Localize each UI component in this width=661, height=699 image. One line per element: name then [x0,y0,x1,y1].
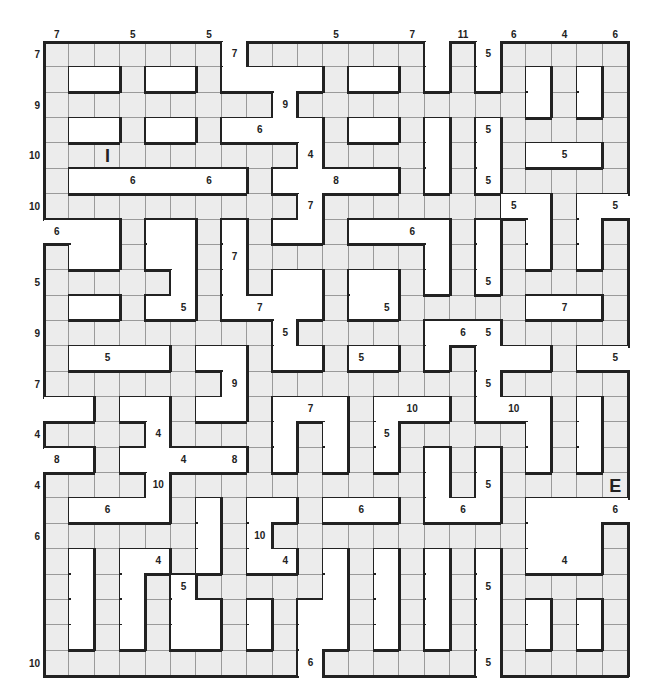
grid-cell[interactable] [374,194,399,219]
grid-cell[interactable] [501,245,526,270]
grid-cell[interactable] [120,118,145,143]
grid-cell[interactable] [450,245,475,270]
grid-cell[interactable] [146,372,171,397]
grid-cell[interactable] [399,67,424,92]
grid-cell[interactable] [501,220,526,245]
grid-cell[interactable] [95,270,120,295]
grid-cell[interactable] [399,549,424,574]
grid-cell[interactable] [450,169,475,194]
grid-cell[interactable] [399,194,424,219]
grid-cell[interactable] [399,93,424,118]
grid-cell[interactable] [44,600,69,625]
grid-cell[interactable] [501,93,526,118]
grid-cell[interactable] [69,321,94,346]
grid-cell[interactable] [603,422,628,447]
grid-cell[interactable] [552,118,577,143]
grid-cell[interactable] [44,549,69,574]
grid-cell[interactable] [349,524,374,549]
grid-cell[interactable] [120,194,145,219]
grid-cell[interactable] [273,524,298,549]
grid-cell[interactable] [450,549,475,574]
grid-cell[interactable] [603,143,628,168]
grid-cell[interactable] [399,422,424,447]
grid-cell[interactable] [323,270,348,295]
grid-cell[interactable] [374,524,399,549]
grid-cell[interactable] [95,575,120,600]
grid-cell[interactable] [298,448,323,473]
grid-cell[interactable] [399,245,424,270]
grid-cell[interactable] [273,372,298,397]
grid-cell[interactable] [399,270,424,295]
grid-cell[interactable] [501,296,526,321]
grid-cell[interactable] [476,194,501,219]
grid-cell[interactable] [171,473,196,498]
grid-cell[interactable] [450,625,475,650]
grid-cell[interactable] [476,524,501,549]
grid-cell[interactable] [298,321,323,346]
grid-cell[interactable] [44,422,69,447]
grid-cell[interactable] [44,194,69,219]
grid-cell[interactable] [196,194,221,219]
grid-cell[interactable] [44,270,69,295]
grid-cell[interactable] [501,575,526,600]
grid-cell[interactable] [146,600,171,625]
grid-cell[interactable] [450,448,475,473]
grid-cell[interactable] [120,321,145,346]
grid-cell[interactable] [552,220,577,245]
grid-cell[interactable] [120,270,145,295]
grid-cell[interactable] [603,397,628,422]
grid-cell[interactable] [146,575,171,600]
grid-cell[interactable] [171,346,196,371]
grid-cell[interactable] [349,245,374,270]
grid-cell[interactable] [95,549,120,574]
grid-cell[interactable] [95,372,120,397]
grid-cell[interactable] [577,651,602,676]
grid-cell[interactable] [120,422,145,447]
grid-cell[interactable] [501,321,526,346]
grid-cell[interactable] [171,397,196,422]
grid-cell[interactable] [196,372,221,397]
grid-cell[interactable] [323,346,348,371]
grid-cell[interactable] [425,296,450,321]
grid-cell[interactable] [577,270,602,295]
grid-cell[interactable] [501,600,526,625]
grid-cell[interactable] [323,42,348,67]
grid-cell[interactable] [69,524,94,549]
grid-cell[interactable] [450,422,475,447]
grid-cell[interactable] [171,549,196,574]
grid-cell[interactable] [450,270,475,295]
grid-cell[interactable] [44,93,69,118]
grid-cell[interactable] [450,346,475,371]
grid-cell[interactable] [577,118,602,143]
grid-cell[interactable] [450,93,475,118]
grid-cell[interactable] [501,143,526,168]
grid-cell[interactable] [526,473,551,498]
grid-cell[interactable] [349,143,374,168]
grid-cell[interactable] [603,651,628,676]
grid-cell[interactable] [450,220,475,245]
grid-cell[interactable] [552,422,577,447]
grid-cell[interactable] [146,194,171,219]
grid-cell[interactable] [247,321,272,346]
grid-cell[interactable] [349,321,374,346]
grid-cell[interactable] [69,473,94,498]
grid-cell[interactable] [95,397,120,422]
grid-cell[interactable] [425,651,450,676]
grid-cell[interactable] [349,575,374,600]
grid-cell[interactable] [171,498,196,523]
grid-cell[interactable] [552,575,577,600]
grid-cell[interactable] [552,194,577,219]
grid-cell[interactable] [69,194,94,219]
grid-cell[interactable] [298,498,323,523]
grid-cell[interactable] [552,93,577,118]
grid-cell[interactable] [552,448,577,473]
grid-cell[interactable] [552,600,577,625]
grid-cell[interactable] [196,245,221,270]
grid-cell[interactable] [44,169,69,194]
grid-cell[interactable] [374,651,399,676]
grid-cell[interactable] [526,169,551,194]
grid-cell[interactable] [399,42,424,67]
grid-cell[interactable] [95,448,120,473]
grid-cell[interactable] [552,321,577,346]
grid-cell[interactable] [69,93,94,118]
